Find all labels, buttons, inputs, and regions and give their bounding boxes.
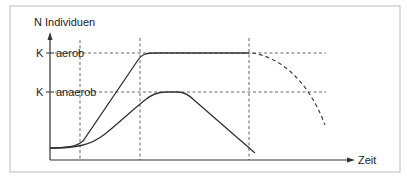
- growth-curve-diagram: N Individuen Zeit K aerob K anaerob: [0, 0, 407, 180]
- k-anaerob-symbol: K: [36, 86, 44, 98]
- x-axis-label: Zeit: [358, 154, 376, 166]
- y-axis-label: N Individuen: [34, 16, 95, 28]
- k-aerob-symbol: K: [36, 47, 44, 59]
- curve-anaerob: [50, 92, 255, 153]
- k-aerob-label: aerob: [56, 47, 84, 59]
- x-axis-arrow-icon: [347, 158, 355, 163]
- curve-aerob-decline: [252, 53, 325, 125]
- y-axis-arrow-icon: [48, 32, 53, 40]
- guide-lines: [55, 38, 326, 160]
- k-anaerob-label: anaerob: [56, 86, 96, 98]
- axes: [50, 38, 348, 160]
